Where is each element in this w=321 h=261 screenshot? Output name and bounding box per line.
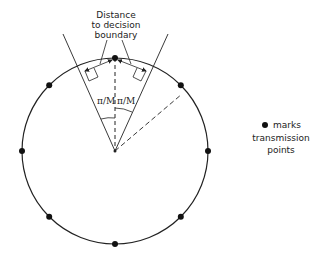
- angle-arc-left: [101, 118, 115, 119]
- transmission-point-6: [19, 148, 25, 154]
- angle-label-left: π/M: [97, 96, 115, 106]
- transmission-point-1: [178, 82, 184, 88]
- angle-label-right: π/M: [117, 96, 135, 106]
- transmission-point-3: [178, 214, 184, 220]
- annotation-line-2: to decision: [92, 20, 141, 30]
- origin-point: [114, 150, 117, 153]
- legend-dot-icon: [262, 122, 268, 128]
- annotation-line-3: boundary: [95, 30, 139, 40]
- legend-line-2: transmission: [252, 133, 310, 143]
- angle-arc-right: [115, 108, 132, 112]
- transmission-point-0: [112, 55, 118, 61]
- transmission-point-2: [205, 148, 211, 154]
- annotation-leader-right: [122, 40, 131, 64]
- transmission-point-7: [46, 82, 52, 88]
- legend-line-1: marks: [273, 120, 301, 130]
- legend-line-3: points: [267, 145, 295, 155]
- annotation-leader-left: [100, 40, 107, 64]
- transmission-point-5: [46, 214, 52, 220]
- decision-boundary-left: [63, 34, 115, 151]
- transmission-points: [19, 55, 211, 247]
- decision-boundary-right: [115, 34, 168, 151]
- annotation-line-1: Distance: [96, 10, 136, 20]
- psk-constellation-diagram: Distance to decision boundary π/M π/M ma…: [0, 0, 321, 261]
- transmission-point-4: [112, 241, 118, 247]
